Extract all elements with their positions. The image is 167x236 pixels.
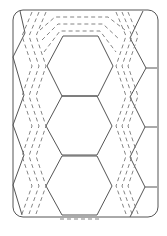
left-dashed-zigzag — [22, 12, 32, 214]
left-dashed-zigzag — [36, 12, 46, 214]
top-dashed-outline — [40, 17, 125, 30]
right-dashed-zigzag — [116, 12, 126, 214]
hexagon-top — [47, 36, 113, 96]
hexagon-column — [46, 36, 113, 215]
hexagon-middle — [46, 96, 112, 155]
quilt-pattern-diagram — [0, 0, 167, 236]
top-dashed-outlines — [40, 17, 125, 52]
top-dashed-outline — [44, 31, 116, 52]
hexagon-bottom — [46, 156, 112, 215]
right-connector-lines — [145, 68, 157, 187]
left-dashed-zigzag — [29, 12, 39, 214]
left-band-dashed-lines — [22, 12, 46, 214]
left-zigzag-line — [13, 11, 25, 215]
right-dashed-zigzag — [122, 12, 132, 214]
right-band-dashed-lines — [116, 12, 138, 214]
right-dashed-zigzag — [128, 12, 138, 214]
top-dashed-outline — [42, 24, 120, 40]
